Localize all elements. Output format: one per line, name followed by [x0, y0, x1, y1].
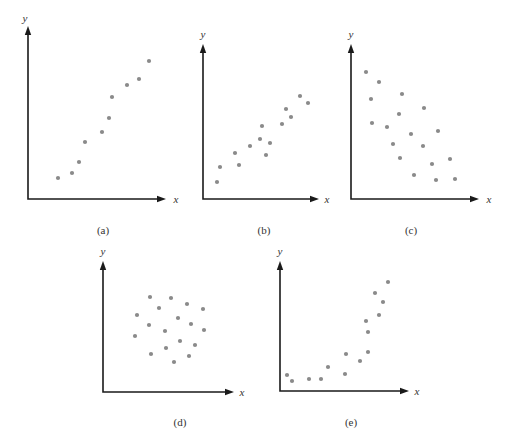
data-point: [137, 77, 141, 81]
x-axis-arrow-icon: [470, 196, 479, 202]
data-point: [147, 59, 151, 63]
x-axis-arrow-icon: [225, 389, 234, 395]
x-axis-arrow-icon: [310, 196, 319, 202]
y-axis-arrow-icon: [100, 261, 106, 270]
data-point: [319, 377, 323, 381]
data-point: [218, 165, 222, 169]
data-point: [366, 350, 370, 354]
scatter-panel-c: [348, 44, 479, 202]
data-point: [100, 130, 104, 134]
data-point: [400, 92, 404, 96]
data-point: [77, 160, 81, 164]
data-point: [422, 106, 426, 110]
data-point: [107, 116, 111, 120]
data-point: [164, 346, 168, 350]
y-axis-arrow-icon: [200, 44, 206, 53]
data-point: [285, 373, 289, 377]
data-point: [306, 101, 310, 105]
data-point: [448, 157, 452, 161]
data-point: [163, 329, 167, 333]
data-point: [157, 306, 161, 310]
data-point: [233, 151, 237, 155]
data-point: [83, 140, 87, 144]
y-axis-arrow-icon: [277, 261, 283, 270]
data-point: [385, 125, 389, 129]
data-point: [187, 354, 191, 358]
data-point: [56, 176, 60, 180]
x-axis-arrow-icon: [400, 388, 409, 394]
scatter-panel-a: [25, 26, 166, 202]
data-point: [178, 339, 182, 343]
data-point: [307, 377, 311, 381]
data-point: [397, 112, 401, 116]
data-point: [289, 115, 293, 119]
data-point: [369, 97, 373, 101]
axes-lines: [280, 267, 403, 391]
data-point: [453, 177, 457, 181]
data-point: [176, 316, 180, 320]
data-point: [398, 156, 402, 160]
data-point: [434, 178, 438, 182]
data-point: [280, 122, 284, 126]
data-point: [202, 328, 206, 332]
data-point: [364, 70, 368, 74]
data-point: [172, 360, 176, 364]
data-point: [258, 137, 262, 141]
data-point: [264, 153, 268, 157]
data-point: [201, 307, 205, 311]
data-point: [215, 180, 219, 184]
data-point: [284, 107, 288, 111]
data-point: [366, 330, 370, 334]
data-point: [358, 359, 362, 363]
data-point: [193, 343, 197, 347]
data-point: [370, 121, 374, 125]
scatter-figure: [0, 0, 529, 444]
data-point: [70, 171, 74, 175]
data-point: [373, 291, 377, 295]
data-point: [412, 173, 416, 177]
data-point: [409, 132, 413, 136]
data-point: [377, 80, 381, 84]
data-point: [133, 334, 137, 338]
data-point: [248, 144, 252, 148]
data-point: [391, 142, 395, 146]
data-point: [421, 144, 425, 148]
scatter-panel-d: [100, 261, 234, 395]
data-point: [386, 280, 390, 284]
axes-lines: [203, 50, 313, 199]
data-point: [290, 379, 294, 383]
data-point: [298, 94, 302, 98]
data-point: [344, 352, 348, 356]
y-axis-arrow-icon: [25, 26, 31, 35]
data-point: [268, 141, 272, 145]
data-point: [377, 313, 381, 317]
axes-lines: [351, 50, 473, 199]
scatter-panel-b: [200, 44, 319, 202]
data-point: [237, 163, 241, 167]
data-point: [430, 162, 434, 166]
data-point: [189, 322, 193, 326]
x-axis-arrow-icon: [157, 196, 166, 202]
data-point: [110, 95, 114, 99]
data-point: [135, 313, 139, 317]
data-point: [169, 296, 173, 300]
scatter-panel-e: [277, 261, 409, 394]
data-point: [148, 295, 152, 299]
data-point: [364, 319, 368, 323]
data-point: [343, 372, 347, 376]
data-point: [436, 129, 440, 133]
data-point: [125, 83, 129, 87]
data-point: [381, 300, 385, 304]
data-point: [326, 365, 330, 369]
data-point: [260, 124, 264, 128]
y-axis-arrow-icon: [348, 44, 354, 53]
data-point: [147, 323, 151, 327]
data-point: [185, 302, 189, 306]
data-point: [149, 352, 153, 356]
axes-lines: [28, 32, 160, 199]
